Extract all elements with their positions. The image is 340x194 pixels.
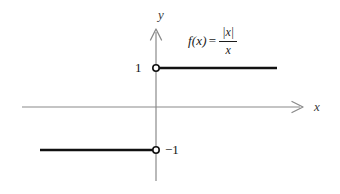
formula-fraction: |x| x <box>219 25 237 58</box>
open-point-positive-one <box>153 65 159 71</box>
tick-label-negative-one: −1 <box>165 143 179 156</box>
formula-equals-sign: = <box>209 33 216 49</box>
open-point-negative-one <box>153 147 159 153</box>
formula-numerator: |x| <box>219 25 237 41</box>
x-axis-label: x <box>314 100 320 113</box>
function-graph-figure: y x 1 −1 f(x) = |x| x <box>0 0 340 194</box>
tick-label-positive-one: 1 <box>135 61 142 74</box>
formula-left-hand-side: f(x) <box>188 33 207 49</box>
formula-denominator: x <box>222 42 233 58</box>
y-axis-label: y <box>158 8 164 21</box>
function-formula: f(x) = |x| x <box>188 24 237 57</box>
graph-canvas <box>0 0 340 194</box>
